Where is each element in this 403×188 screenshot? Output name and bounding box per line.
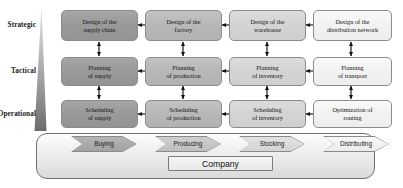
node-line2: of transport xyxy=(338,72,367,80)
node-line2: of supply xyxy=(85,114,113,122)
node-design-factory[interactable]: Design of the factory xyxy=(145,10,222,41)
node-line2: of inventory xyxy=(252,114,283,122)
node-line2: of inventory xyxy=(252,72,283,80)
node-scheduling-inventory[interactable]: Scheduling of inventory xyxy=(229,100,306,128)
node-line1: Design of the xyxy=(327,18,378,26)
node-line1: Scheduling xyxy=(252,106,283,114)
node-planning-production[interactable]: Planning of production xyxy=(145,57,222,86)
node-planning-supply[interactable]: Planning of supply xyxy=(61,57,138,86)
node-line1: Planning xyxy=(166,64,200,72)
node-line1: Optimization of xyxy=(332,106,372,114)
node-design-warehouse[interactable]: Design of the warehouse xyxy=(229,10,306,41)
node-scheduling-production[interactable]: Scheduling of production xyxy=(145,100,222,128)
process-label: Distributing xyxy=(340,140,372,147)
node-line2: of production xyxy=(166,72,200,80)
node-planning-inventory[interactable]: Planning of inventory xyxy=(229,57,306,86)
company-label: Company xyxy=(202,159,239,169)
process-label: Stocking xyxy=(260,140,285,147)
node-design-distribution-network[interactable]: Design of the distribution network xyxy=(313,10,392,41)
node-line1: Planning xyxy=(88,64,112,72)
node-line2: supply chain xyxy=(83,26,117,34)
node-line2: of production xyxy=(166,114,200,122)
row-label-strategic: Strategic xyxy=(0,21,36,29)
process-label: Buying xyxy=(94,140,114,147)
node-line2: warehouse xyxy=(251,26,285,34)
row-label-tactical: Tactical xyxy=(0,67,36,75)
node-line1: Planning xyxy=(252,64,283,72)
node-line1: Design of the xyxy=(251,18,285,26)
node-line1: Design of the xyxy=(167,18,201,26)
node-line2: of supply xyxy=(88,72,112,80)
decision-level-wedge xyxy=(35,6,47,131)
arrow-v-tactical-operational xyxy=(99,86,351,99)
diagram-canvas: Strategic Tactical Operational Design of… xyxy=(0,0,403,188)
node-scheduling-supply[interactable]: Scheduling of supply xyxy=(61,100,138,128)
node-line1: Planning xyxy=(338,64,367,72)
arrow-v-strategic-tactical xyxy=(99,42,351,56)
node-line1: Design of the xyxy=(83,18,117,26)
node-optimization-routing[interactable]: Optimization of routing xyxy=(313,100,392,128)
node-line1: Scheduling xyxy=(85,106,113,114)
node-line1: Scheduling xyxy=(166,106,200,114)
process-label: Producing xyxy=(174,140,203,147)
node-line2: distribution network xyxy=(327,26,378,34)
row-label-operational: Operational xyxy=(0,110,36,118)
company-label-box[interactable]: Company xyxy=(168,156,273,171)
node-line2: factory xyxy=(167,26,201,34)
node-design-supply-chain[interactable]: Design of the supply chain xyxy=(61,10,138,41)
node-planning-transport[interactable]: Planning of transport xyxy=(313,57,392,86)
node-line2: routing xyxy=(332,114,372,122)
